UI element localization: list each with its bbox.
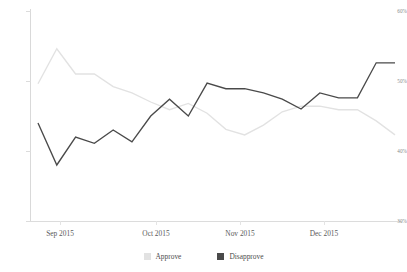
x-tick-label: Oct 2015: [116, 229, 196, 238]
y-tick-mark: [26, 221, 31, 222]
x-tick-mark: [60, 221, 61, 225]
x-tick-mark: [156, 221, 157, 225]
plot-area: [30, 11, 401, 221]
series-line-disapprove: [38, 63, 395, 165]
x-tick-label: Dec 2015: [284, 229, 364, 238]
legend-entry-approve[interactable]: Approve: [144, 252, 182, 261]
x-tick-label: Sep 2015: [20, 229, 100, 238]
x-tick-label: Nov 2015: [200, 229, 280, 238]
series-canvas: [30, 11, 401, 221]
x-tick-mark: [324, 221, 325, 225]
legend-label: Disapprove: [229, 252, 263, 261]
x-axis-line: [30, 221, 402, 222]
legend-swatch-approve: [144, 253, 151, 260]
series-line-approve: [38, 49, 395, 135]
legend-swatch-disapprove: [217, 253, 224, 260]
approval-line-chart: 60%50%40%30% Sep 2015Oct 2015Nov 2015Dec…: [0, 0, 407, 272]
x-tick-mark: [240, 221, 241, 225]
legend-label: Approve: [156, 252, 182, 261]
legend-entry-disapprove[interactable]: Disapprove: [217, 252, 263, 261]
chart-legend: ApproveDisapprove: [0, 252, 407, 261]
